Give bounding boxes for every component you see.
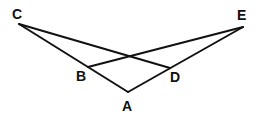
segment-ea	[128, 27, 243, 92]
geometry-diagram: C E B D A	[0, 0, 262, 119]
segment-ca	[19, 24, 128, 92]
label-a: A	[122, 98, 132, 114]
label-e: E	[237, 7, 246, 23]
segment-cd	[19, 24, 170, 68]
label-c: C	[12, 6, 22, 22]
label-d: D	[170, 69, 180, 85]
segment-eb	[88, 27, 243, 67]
label-b: B	[76, 68, 86, 84]
